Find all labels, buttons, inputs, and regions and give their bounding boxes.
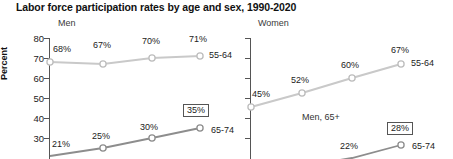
men-65-74-end-label: 65-74 [211, 125, 234, 135]
women-65-74-label-2020-boxed: 28% [387, 122, 413, 135]
women-series-55-64 [248, 61, 404, 110]
women-55-64-label-2020: 67% [391, 45, 409, 55]
men-series-55-64 [47, 53, 203, 67]
chart-figure: Labor force participation rates by age a… [0, 0, 453, 159]
men-55-64-label-2010: 70% [142, 36, 160, 46]
women-65-74-end-label: 65-74 [412, 141, 435, 151]
women-55-64-label-2000: 52% [291, 75, 309, 85]
men-series-65-74 [50, 125, 203, 156]
men-55-64-label-2020: 71% [189, 34, 207, 44]
men-55-64-end-label: 55-64 [209, 50, 232, 60]
women-55-64-label-2010: 60% [341, 60, 359, 70]
men-65-74-label-2010: 30% [140, 122, 158, 132]
men-65-74-label-2000: 25% [92, 131, 110, 141]
plot-lines-layer [0, 0, 453, 159]
women-55-64-end-label: 55-64 [411, 58, 434, 68]
men-55-64-label-1990: 68% [53, 44, 71, 54]
women-65-74-label-2010: 22% [340, 141, 358, 151]
men-55-64-label-2000: 67% [93, 40, 111, 50]
women-55-64-label-1990: 45% [252, 89, 270, 99]
men-65-74-label-1990: 21% [52, 139, 70, 149]
women-panel-annotation: Men, 65+ [302, 112, 340, 122]
men-axis [44, 38, 50, 159]
men-65-74-label-2020-boxed: 35% [183, 104, 209, 117]
women-axis [245, 38, 251, 159]
